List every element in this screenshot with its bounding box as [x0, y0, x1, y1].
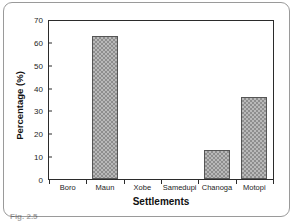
- y-tick-label: 60: [26, 38, 43, 47]
- bar-slot: [236, 21, 273, 179]
- bar-motopi: [241, 97, 267, 179]
- y-tick-label: 20: [26, 130, 43, 139]
- x-tick-label: Xobe: [124, 183, 161, 192]
- x-tick-label: Samedupi: [161, 183, 198, 192]
- x-tick-label: Boro: [49, 183, 86, 192]
- bar-slot: [198, 21, 235, 179]
- x-axis-title: Settlements: [48, 196, 274, 207]
- bar-chanoga: [204, 150, 230, 179]
- x-tick-label: Chanoga: [198, 183, 235, 192]
- bar-chart: 010203040506070 Percentage (%) BoroMaunX…: [0, 0, 296, 222]
- y-tick-label: 30: [26, 107, 43, 116]
- y-tick-label: 40: [26, 84, 43, 93]
- bar-maun: [92, 36, 118, 179]
- bars-layer: [49, 21, 273, 179]
- y-axis-title: Percentage (%): [14, 41, 25, 171]
- figure-container: 010203040506070 Percentage (%) BoroMaunX…: [0, 0, 296, 222]
- y-tick-label: 10: [26, 153, 43, 162]
- figure-caption: Fig. 2.5: [10, 212, 286, 221]
- bar-slot: [49, 21, 86, 179]
- y-tick-label: 0: [26, 176, 43, 185]
- x-tick-label: Motopi: [236, 183, 273, 192]
- bar-slot: [161, 21, 198, 179]
- bar-slot: [124, 21, 161, 179]
- y-tick-label: 50: [26, 61, 43, 70]
- x-tick-mark: [273, 180, 274, 184]
- x-axis-labels: BoroMaunXobeSamedupiChanogaMotopi: [49, 183, 273, 192]
- bar-slot: [86, 21, 123, 179]
- y-tick-label: 70: [26, 16, 43, 25]
- x-tick-label: Maun: [86, 183, 123, 192]
